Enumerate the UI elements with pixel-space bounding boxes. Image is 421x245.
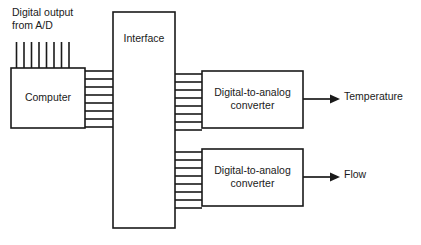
flow-output-label: Flow	[344, 168, 366, 181]
bus-interface-to-dac-bottom	[175, 152, 202, 208]
bus-computer-to-interface	[85, 71, 113, 127]
flow-arrow	[303, 173, 340, 182]
ad-input-lines	[17, 42, 70, 68]
temperature-output-label: Temperature	[344, 90, 403, 103]
ad-source-label: Digital output from A/D	[12, 6, 73, 31]
interface-label: Interface	[113, 32, 175, 45]
dac-bottom-label: Digital-to-analog converter	[202, 164, 303, 189]
flow-arrow-head	[330, 173, 340, 182]
block-diagram: Digital output from A/D Interface Comput…	[0, 0, 421, 245]
dac-top-label: Digital-to-analog converter	[202, 86, 303, 111]
diagram-canvas	[0, 0, 421, 245]
computer-label: Computer	[11, 91, 85, 104]
bus-interface-to-dac-top	[175, 74, 202, 130]
temperature-arrow-head	[330, 95, 340, 104]
temperature-arrow	[303, 95, 340, 104]
